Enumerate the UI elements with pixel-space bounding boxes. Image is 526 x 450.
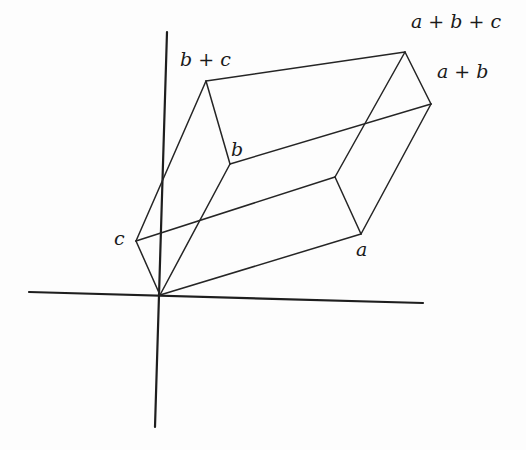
label-text: b + c <box>180 48 231 70</box>
label-a-plus-b-plus-c: a + b + c <box>411 12 501 31</box>
edge-origin-c <box>136 241 160 295</box>
label-c: c <box>114 229 125 248</box>
edge-a-a_plus_c <box>335 177 361 234</box>
label-b: b <box>231 140 243 159</box>
horizontal-axis <box>29 292 423 303</box>
vertical-axis <box>155 32 167 427</box>
label-text: b <box>231 138 243 160</box>
edge-origin-a <box>160 234 361 295</box>
label-a: a <box>356 240 367 259</box>
label-b-plus-c: b + c <box>180 50 231 69</box>
parallelepiped-diagram: a + b + c a + b b + c b c a <box>0 0 526 450</box>
label-a-plus-b: a + b <box>437 62 489 81</box>
edge-b-a_plus_b <box>230 104 431 164</box>
label-text: a + b <box>437 60 489 82</box>
edge-a_plus_b-a_plus_b_plus_c <box>405 52 431 104</box>
label-text: a + b + c <box>411 10 501 32</box>
label-text: a <box>356 238 367 260</box>
edge-c-b_plus_c <box>136 81 206 241</box>
edge-b-b_plus_c <box>206 81 230 164</box>
edge-b_plus_c-a_plus_b_plus_c <box>206 52 405 81</box>
edge-c-a_plus_c <box>136 177 335 241</box>
label-text: c <box>114 227 125 249</box>
edge-a-a_plus_b <box>361 104 431 234</box>
